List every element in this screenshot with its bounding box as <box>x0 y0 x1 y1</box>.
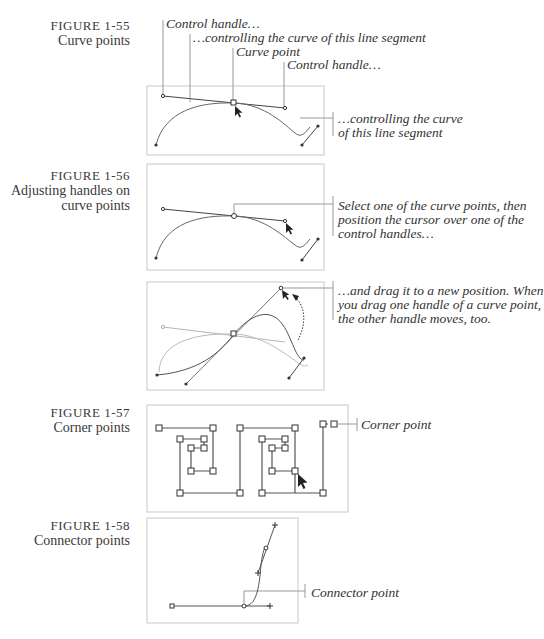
cursor-arrow-icon <box>282 290 289 300</box>
figure-1-55-box <box>147 86 324 155</box>
cursor-arrow-icon <box>235 106 243 118</box>
cursor-arrow-icon <box>286 223 294 235</box>
cursor-arrow-icon <box>298 474 308 489</box>
